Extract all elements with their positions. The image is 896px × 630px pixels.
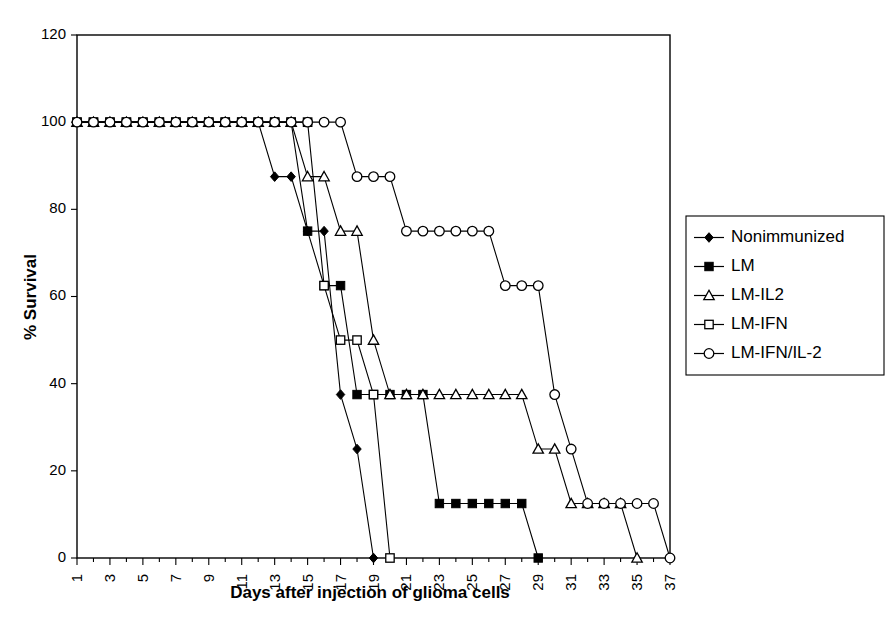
marker-open-circle (188, 117, 198, 127)
marker-filled-square (485, 499, 493, 507)
marker-open-circle (566, 444, 576, 454)
y-tick-label: 40 (49, 374, 66, 391)
marker-open-circle (468, 226, 478, 236)
marker-open-square (369, 390, 377, 398)
x-tick-label: 1 (68, 574, 85, 582)
marker-open-circle (220, 117, 230, 127)
marker-open-circle (418, 226, 428, 236)
y-tick-label: 80 (49, 199, 66, 216)
legend-label: Nonimmunized (731, 227, 844, 246)
y-axis-title: % Survival (21, 254, 40, 340)
marker-open-circle (336, 117, 346, 127)
marker-open-circle (286, 117, 296, 127)
marker-filled-square (518, 499, 526, 507)
marker-open-circle (500, 281, 510, 291)
marker-filled-square (534, 554, 542, 562)
x-tick-label: 29 (529, 574, 546, 591)
marker-open-circle (649, 499, 659, 509)
marker-filled-square (336, 281, 344, 289)
marker-filled-square (501, 499, 509, 507)
marker-open-circle (616, 499, 626, 509)
marker-open-circle (583, 499, 593, 509)
marker-filled-square (452, 499, 460, 507)
marker-open-circle (303, 117, 313, 127)
marker-open-circle (319, 117, 329, 127)
marker-open-circle (122, 117, 132, 127)
marker-filled-square (468, 499, 476, 507)
marker-open-square (386, 554, 394, 562)
legend-label: LM-IL2 (731, 285, 784, 304)
marker-filled-square (705, 262, 713, 270)
marker-filled-square (435, 499, 443, 507)
x-tick-label: 5 (134, 574, 151, 582)
marker-filled-square (353, 390, 361, 398)
marker-open-circle (517, 281, 527, 291)
marker-open-circle (550, 390, 560, 400)
y-tick-label: 20 (49, 461, 66, 478)
marker-open-circle (237, 117, 247, 127)
x-tick-label: 7 (167, 574, 184, 582)
marker-open-circle (105, 117, 115, 127)
marker-open-circle (138, 117, 148, 127)
marker-open-circle (253, 117, 263, 127)
marker-open-circle (451, 226, 461, 236)
marker-open-circle (204, 117, 214, 127)
marker-open-circle (484, 226, 494, 236)
legend-label: LM (731, 256, 755, 275)
x-axis-title: Days after injection of glioma cells (230, 583, 510, 602)
marker-open-square (705, 320, 713, 328)
marker-open-circle (704, 349, 714, 359)
marker-open-circle (89, 117, 99, 127)
marker-open-circle (352, 172, 362, 182)
survival-chart-figure: 020406080100120 135791113151719212325272… (0, 0, 896, 630)
marker-open-square (320, 281, 328, 289)
marker-open-circle (171, 117, 181, 127)
x-tick-label: 31 (562, 574, 579, 591)
y-tick-label: 120 (41, 25, 66, 42)
marker-open-circle (72, 117, 82, 127)
x-tick-label: 9 (200, 574, 217, 582)
marker-open-circle (435, 226, 445, 236)
marker-open-circle (665, 553, 675, 563)
legend[interactable]: NonimmunizedLMLM-IL2LM-IFNLM-IFN/IL-2 (686, 216, 884, 375)
marker-open-circle (369, 172, 379, 182)
marker-open-circle (632, 499, 642, 509)
legend-label: LM-IFN (731, 314, 788, 333)
marker-open-circle (533, 281, 543, 291)
marker-open-circle (155, 117, 165, 127)
marker-open-circle (599, 499, 609, 509)
chart-canvas: 020406080100120 135791113151719212325272… (0, 0, 896, 630)
marker-open-circle (402, 226, 412, 236)
marker-open-square (353, 336, 361, 344)
y-tick-label: 60 (49, 286, 66, 303)
legend-label: LM-IFN/IL-2 (731, 343, 822, 362)
y-tick-label: 100 (41, 112, 66, 129)
x-tick-label: 3 (101, 574, 118, 582)
y-tick-label: 0 (58, 548, 66, 565)
marker-open-square (336, 336, 344, 344)
x-tick-label: 35 (628, 574, 645, 591)
marker-open-circle (385, 172, 395, 182)
marker-open-circle (270, 117, 280, 127)
x-tick-label: 37 (661, 574, 678, 591)
x-tick-label: 33 (595, 574, 612, 591)
marker-filled-square (303, 227, 311, 235)
